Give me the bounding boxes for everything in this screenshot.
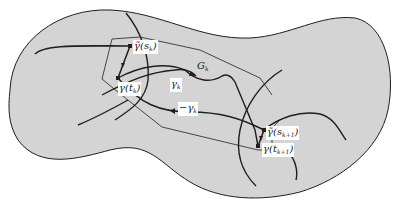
point-gamma-tilde-s-k	[128, 44, 132, 48]
point-gamma-t-k	[116, 76, 120, 80]
label-tail: )	[289, 143, 293, 154]
label-base: G	[197, 60, 205, 71]
label-tail: )	[153, 40, 157, 51]
label-base: −γ	[179, 102, 193, 113]
label-base: γ(t	[263, 143, 277, 154]
label-gamma-t-k: γ(tk)	[118, 82, 141, 96]
label-base: γ̃(s	[134, 40, 149, 51]
point-gamma-t-k1	[256, 144, 260, 148]
outer-region	[9, 10, 391, 198]
label-tail: )	[295, 126, 299, 137]
label-gamma-tilde-s-k1: γ̃(sk+1)	[266, 126, 299, 140]
label-base: γ(t	[119, 82, 133, 93]
label-gamma-k: γk	[170, 78, 182, 92]
label-tail: )	[137, 82, 141, 93]
label-neg-gamma-k: −γk	[178, 102, 198, 116]
label-base: γ̃(s	[267, 126, 282, 137]
label-gamma-tilde-s-k: γ̃(sk)	[133, 40, 158, 54]
label-G-k: Gk	[196, 60, 210, 74]
label-gamma-t-k1: γ(tk+1)	[262, 143, 294, 157]
label-sub: k	[205, 65, 209, 72]
label-sub: k	[193, 107, 197, 114]
label-sub: k	[177, 83, 181, 90]
diagram-canvas	[0, 0, 396, 209]
label-sub: k+1	[282, 131, 294, 138]
label-sub: k+1	[277, 148, 289, 155]
